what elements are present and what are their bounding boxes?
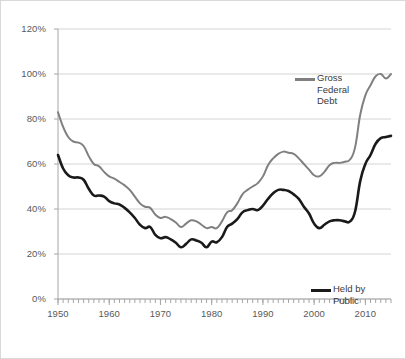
debt-chart: 0%20%40%60%80%100%120% 19501960197019801…: [0, 0, 406, 359]
y-tick-label: 20%: [10, 248, 46, 259]
x-tick-label: 1980: [190, 308, 234, 319]
y-tick-label: 80%: [10, 113, 46, 124]
x-tick-label: 2000: [292, 308, 336, 319]
x-tick-label: 1950: [36, 308, 80, 319]
legend-swatch-held-by-public: [311, 289, 331, 292]
y-tick-label: 40%: [10, 203, 46, 214]
y-tick-label: 120%: [10, 23, 46, 34]
gridlines: [54, 29, 391, 299]
legend-label-gross-federal-debt: Gross Federal Debt: [317, 72, 377, 107]
legend-swatch-gross-federal-debt: [295, 78, 315, 81]
x-tick-label: 1970: [138, 308, 182, 319]
series-line-held-by-public: [58, 136, 391, 247]
y-tick-label: 0%: [10, 293, 46, 304]
x-tick-label: 2010: [343, 308, 387, 319]
x-tick-label: 1990: [241, 308, 285, 319]
y-tick-label: 60%: [10, 158, 46, 169]
y-tick-label: 100%: [10, 68, 46, 79]
legend-label-held-by-public: Held by Public: [333, 283, 391, 306]
x-tick-label: 1960: [87, 308, 131, 319]
